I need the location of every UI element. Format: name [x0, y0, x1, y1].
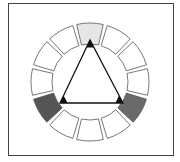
- wheel-segment-3: [127, 69, 149, 96]
- wheel-segment-9: [31, 69, 53, 96]
- wheel-segment-6: [77, 119, 104, 141]
- vertex-marker-icon: [115, 95, 123, 103]
- color-wheel: [0, 0, 180, 162]
